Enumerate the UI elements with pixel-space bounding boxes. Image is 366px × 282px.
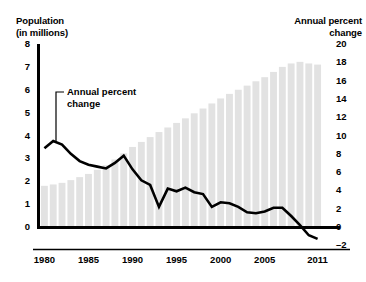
right-axis-tick-label: 6 <box>336 167 356 177</box>
right-axis-tick-label: 20 <box>336 39 356 49</box>
left-axis-tick-label: 2 <box>14 176 30 186</box>
bar <box>156 132 163 227</box>
bar <box>120 153 127 227</box>
x-axis-tick-label: 2011 <box>298 255 338 265</box>
bar <box>200 109 207 227</box>
right-axis-tick-label: 10 <box>336 131 356 141</box>
right-axis-tick-label: 18 <box>336 57 356 67</box>
bar <box>147 137 154 227</box>
bar <box>173 123 180 227</box>
bar <box>297 62 304 227</box>
bar <box>191 113 198 227</box>
bar <box>226 94 233 227</box>
bar <box>138 142 145 227</box>
bar <box>261 77 268 227</box>
right-axis-tick-label: 8 <box>336 149 356 159</box>
plot-area <box>0 0 366 282</box>
bar <box>59 183 66 227</box>
bar <box>50 184 57 227</box>
bar-series <box>41 62 321 227</box>
left-axis-tick-label: 4 <box>14 131 30 141</box>
bar <box>279 67 286 227</box>
chart-container: Population (in millions) Annual percent … <box>0 0 366 282</box>
bar <box>85 174 92 227</box>
bar <box>314 65 321 227</box>
bar <box>208 103 215 227</box>
x-axis-tick-label: 2005 <box>245 255 285 265</box>
bar <box>129 147 136 227</box>
x-axis-tick-label: 1985 <box>69 255 109 265</box>
bar <box>244 86 251 227</box>
bar <box>217 98 224 227</box>
left-axis-tick-label: 1 <box>14 199 30 209</box>
bar <box>41 186 48 227</box>
x-axis-tick-label: 1980 <box>24 255 64 265</box>
left-axis-tick-label: 7 <box>14 62 30 72</box>
right-axis-tick-label: 0 <box>336 222 356 232</box>
left-axis-tick-label: 8 <box>14 39 30 49</box>
left-axis-tick-label: 0 <box>14 222 30 232</box>
left-axis-tick-label: 5 <box>14 108 30 118</box>
bar <box>103 165 110 227</box>
bar <box>252 81 259 227</box>
bar <box>111 160 118 227</box>
right-axis-tick-label: 4 <box>336 185 356 195</box>
bar <box>164 127 171 227</box>
right-axis-tick-label: 14 <box>336 94 356 104</box>
right-axis-tick-label: 12 <box>336 112 356 122</box>
right-axis-tick-label: 16 <box>336 76 356 86</box>
left-axis-tick-label: 3 <box>14 153 30 163</box>
bar <box>76 177 83 227</box>
x-axis-tick-label: 1995 <box>157 255 197 265</box>
left-axis-tick-label: 6 <box>14 85 30 95</box>
bar <box>182 118 189 227</box>
right-axis-tick-label: –2 <box>336 240 356 250</box>
x-axis-tick-label: 2000 <box>201 255 241 265</box>
right-axis-tick-label: 2 <box>336 204 356 214</box>
bar <box>270 72 277 227</box>
bar <box>288 63 295 227</box>
annotation-leader-line <box>56 92 64 141</box>
bar <box>67 180 74 227</box>
x-axis-tick-label: 1990 <box>113 255 153 265</box>
bar <box>305 63 312 227</box>
bar <box>94 170 101 227</box>
